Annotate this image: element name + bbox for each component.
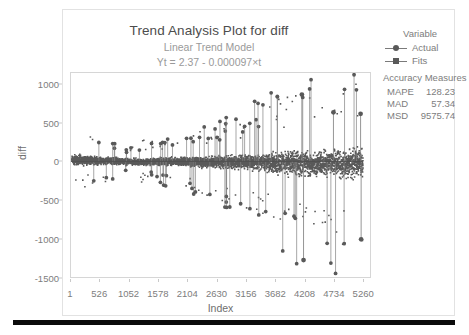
spike-marker <box>215 136 219 140</box>
spike-marker <box>243 124 247 128</box>
x-tick-mark <box>70 279 71 282</box>
x-tick-label: 3682 <box>265 288 286 299</box>
spike-marker <box>150 142 154 146</box>
spike-marker <box>269 91 273 95</box>
accuracy-value-mape: 128.23 <box>426 86 455 97</box>
spike-marker <box>188 181 192 185</box>
square-marker-icon <box>393 58 399 64</box>
x-tick-label: 2104 <box>177 288 198 299</box>
x-tick-mark <box>305 279 306 282</box>
x-tick-mark <box>158 279 159 282</box>
x-tick-label: 1052 <box>118 288 139 299</box>
y-tick-mark <box>59 122 62 123</box>
spike-marker <box>352 73 356 77</box>
x-tick-label: 3156 <box>235 288 256 299</box>
spike-marker <box>223 205 227 209</box>
x-tick-mark <box>246 279 247 282</box>
plot-area <box>70 72 371 278</box>
spike-marker <box>138 148 142 152</box>
y-tick-label: 1000 <box>29 78 59 89</box>
x-tick-label: 4734 <box>323 288 344 299</box>
spike-marker <box>301 96 305 100</box>
x-tick-mark <box>275 279 276 282</box>
page-root: Trend Analysis Plot for diff Linear Tren… <box>0 0 469 335</box>
x-tick-label: 1 <box>67 288 72 299</box>
x-tick-mark <box>187 279 188 282</box>
spike-marker <box>208 193 212 197</box>
spike-marker <box>308 87 312 91</box>
spike-marker <box>166 137 170 141</box>
spike-marker <box>264 210 268 214</box>
spike-marker <box>125 150 129 154</box>
spike-marker <box>104 176 108 180</box>
spike-marker <box>191 140 195 144</box>
x-tick-label: 5260 <box>353 288 374 299</box>
legend-label-fits: Fits <box>412 55 427 66</box>
y-tick-mark <box>59 200 62 201</box>
spike-marker <box>190 187 194 191</box>
spike-marker <box>92 179 96 183</box>
spike-marker <box>261 103 265 107</box>
spike-marker <box>202 125 206 129</box>
spike-marker <box>159 180 163 184</box>
spike-marker <box>149 170 153 174</box>
circle-marker-icon <box>393 45 399 51</box>
spike-marker <box>206 137 210 141</box>
spike-marker <box>283 211 287 215</box>
accuracy-measures-title: Accuracy Measures <box>383 72 455 83</box>
trend-equation: Yt = 2.37 - 0.000097×t <box>63 56 355 68</box>
spike-marker <box>194 190 198 194</box>
x-tick-label: 4208 <box>294 288 315 299</box>
accuracy-key-mape: MAPE <box>387 86 414 97</box>
spike-marker <box>292 214 296 218</box>
y-axis-label: diff <box>16 146 28 160</box>
x-tick-label: 1578 <box>147 288 168 299</box>
spike-marker <box>329 261 333 265</box>
chart-title: Trend Analysis Plot for diff <box>63 23 355 38</box>
spike-marker <box>257 213 261 217</box>
spike-marker <box>234 117 238 121</box>
legend-item-actual: Actual <box>385 42 451 55</box>
legend-title: Variable <box>403 28 451 39</box>
legend: Variable Actual Fits <box>385 28 451 68</box>
y-tick-label: 500 <box>29 117 59 128</box>
spike-marker <box>334 272 338 276</box>
spike-marker <box>256 101 260 105</box>
spike-marker <box>97 141 101 145</box>
data-point-cloud <box>71 83 364 245</box>
y-tick-mark <box>59 278 62 279</box>
spike-marker <box>198 135 202 139</box>
spike-marker <box>248 121 252 125</box>
x-tick-mark <box>129 279 130 282</box>
x-tick-mark <box>363 279 364 282</box>
chart-subtitle: Linear Trend Model <box>63 41 355 53</box>
y-tick-mark <box>59 83 62 84</box>
chart-card: Trend Analysis Plot for diff Linear Tren… <box>62 9 455 316</box>
y-tick-label: -1000 <box>29 234 59 245</box>
spike-marker <box>342 242 346 246</box>
y-tick-label: 0 <box>29 156 59 167</box>
spike-marker <box>241 130 245 134</box>
outlier-marker <box>359 237 364 242</box>
spike-marker <box>129 146 133 150</box>
spike-marker <box>224 116 228 120</box>
x-tick-mark <box>99 279 100 282</box>
outlier-marker <box>358 111 363 116</box>
accuracy-measures: Accuracy Measures MAPE 128.23 MAD 57.34 … <box>383 72 455 122</box>
spike-marker <box>124 168 128 172</box>
spike-marker <box>189 136 193 140</box>
bottom-black-bar <box>13 320 455 325</box>
spike-marker <box>171 143 175 147</box>
accuracy-value-msd: 9575.74 <box>421 110 455 121</box>
spike-marker <box>155 175 159 179</box>
accuracy-value-mad: 57.34 <box>431 98 455 109</box>
spike-marker <box>161 173 165 177</box>
y-axis-ticks: 10005000-500-1000-1500 <box>25 72 59 278</box>
x-tick-mark <box>217 279 218 282</box>
spike-marker <box>253 99 257 103</box>
accuracy-row: MSD 9575.74 <box>383 110 455 122</box>
spike-marker <box>165 174 169 178</box>
y-tick-mark <box>59 161 62 162</box>
spike-marker <box>248 207 252 211</box>
accuracy-row: MAPE 128.23 <box>383 86 455 98</box>
